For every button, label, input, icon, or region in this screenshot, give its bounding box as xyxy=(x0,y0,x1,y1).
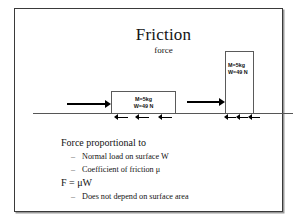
slide-body: Force proportional to – Normal load on s… xyxy=(61,136,286,203)
slide-frame: Friction force M=5kg W=49 N xyxy=(14,8,283,212)
body-bullet-1-text: Normal load on surface W xyxy=(82,152,169,161)
arrow-shaft xyxy=(67,103,105,105)
arrow-shaft xyxy=(139,117,149,118)
block-left-labels: M=5kg W=49 N xyxy=(112,96,175,110)
arrow-shaft xyxy=(252,117,260,118)
arrow-shaft xyxy=(162,117,172,118)
bullet-dash-icon: – xyxy=(71,150,75,163)
presentation-slide: Friction force M=5kg W=49 N xyxy=(0,0,297,220)
body-heading-1: Force proportional to xyxy=(61,136,286,150)
body-bullet-2-text: Coefficient of friction μ xyxy=(82,165,160,174)
bullet-dash-icon: – xyxy=(71,163,75,176)
block-right: M=5kg W=49 N xyxy=(225,51,254,114)
body-bullet-3: – Does not depend on surface area xyxy=(61,190,286,203)
arrow-shaft xyxy=(228,117,236,118)
arrow-shaft xyxy=(187,101,219,103)
block-left-mass: M=5kg xyxy=(112,96,175,103)
arrow-shaft xyxy=(118,117,128,118)
bullet-dash-icon: – xyxy=(71,190,75,203)
block-left: M=5kg W=49 N xyxy=(111,91,176,114)
body-heading-2: F = μW xyxy=(61,176,286,190)
block-left-weight: W=49 N xyxy=(112,103,175,110)
block-right-labels: M=5kg W=49 N xyxy=(228,62,248,76)
arrow-shaft xyxy=(240,117,248,118)
body-bullet-2: – Coefficient of friction μ xyxy=(61,163,286,176)
body-bullet-3-text: Does not depend on surface area xyxy=(82,192,189,201)
page-title: Friction xyxy=(15,25,297,44)
block-right-mass: M=5kg xyxy=(228,62,248,69)
body-bullet-1: – Normal load on surface W xyxy=(61,150,286,163)
block-right-weight: W=49 N xyxy=(228,69,248,76)
page-subtitle: force xyxy=(15,45,297,56)
